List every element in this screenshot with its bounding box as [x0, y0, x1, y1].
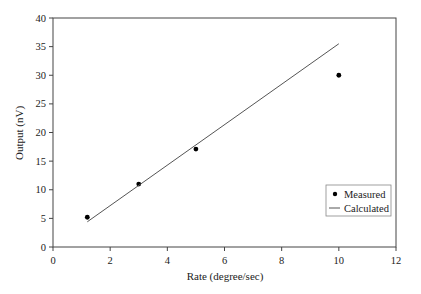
- x-tick-label: 4: [165, 255, 171, 266]
- legend: Measured Calculated: [326, 185, 391, 216]
- y-tick-label: 30: [36, 70, 47, 81]
- series-layer: [85, 44, 341, 222]
- measured-point: [85, 215, 90, 220]
- y-tick-label: 25: [36, 98, 47, 109]
- calculated-line: [87, 44, 339, 222]
- y-axis-ticks: 0510152025303540: [36, 13, 54, 253]
- legend-label-calculated: Calculated: [344, 203, 390, 214]
- y-axis-label: Output (nV): [13, 106, 26, 160]
- y-tick-label: 0: [41, 242, 46, 253]
- x-tick-label: 6: [222, 255, 227, 266]
- x-tick-label: 12: [391, 255, 402, 266]
- y-tick-label: 15: [36, 156, 47, 167]
- x-tick-label: 2: [108, 255, 113, 266]
- measured-point: [194, 147, 199, 152]
- x-axis-label: Rate (degree/sec): [187, 270, 264, 283]
- y-tick-label: 40: [36, 13, 47, 24]
- y-tick-label: 35: [36, 41, 47, 52]
- x-tick-label: 10: [334, 255, 345, 266]
- x-tick-label: 0: [50, 255, 55, 266]
- measured-point: [336, 73, 341, 78]
- x-axis-ticks: 024681012: [50, 247, 401, 266]
- y-tick-label: 5: [41, 213, 46, 224]
- x-tick-label: 8: [279, 255, 284, 266]
- chart: 0510152025303540 024681012 Rate (degree/…: [0, 0, 421, 294]
- y-tick-label: 20: [36, 127, 47, 138]
- legend-label-measured: Measured: [344, 189, 386, 200]
- y-tick-label: 10: [36, 184, 47, 195]
- legend-marker-measured-icon: [333, 192, 337, 196]
